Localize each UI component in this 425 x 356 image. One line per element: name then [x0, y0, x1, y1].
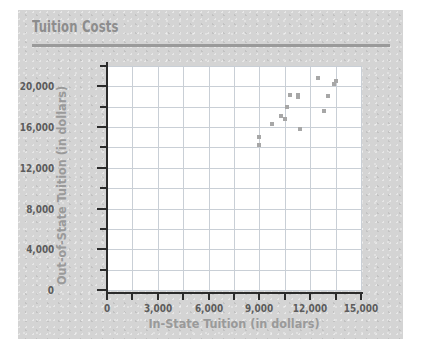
- scatter-chart: 04,0008,00012,00016,00020,00003,0006,000…: [18, 10, 403, 339]
- y-axis-tick-minor: [100, 228, 106, 230]
- scatter-point: [296, 95, 300, 99]
- y-axis-tick-minor: [100, 106, 106, 108]
- y-axis-label: Out-of-State Tuition (in dollars): [54, 81, 69, 291]
- grid-line-horizontal: [107, 147, 361, 148]
- x-axis-tick: [208, 294, 210, 300]
- x-axis-tick-label: 6,000: [195, 302, 223, 315]
- grid-line-vertical: [361, 66, 362, 290]
- x-axis-tick-label: 12,000: [293, 302, 327, 315]
- y-axis-tick-label: 20,000: [20, 80, 54, 93]
- scatter-point: [270, 122, 274, 126]
- x-axis-tick-minor: [182, 294, 184, 300]
- x-axis-tick: [258, 294, 260, 300]
- grid-line-vertical: [132, 66, 133, 290]
- x-axis-tick-minor: [131, 294, 133, 300]
- grid-line-vertical: [259, 66, 260, 290]
- grid-line-vertical: [310, 66, 311, 290]
- x-axis-tick-label: 0: [104, 302, 110, 315]
- y-axis-tick-label: 12,000: [20, 161, 54, 174]
- grid-line-horizontal: [107, 249, 361, 250]
- x-axis-tick-label: 9,000: [245, 302, 273, 315]
- y-axis-tick-minor: [100, 269, 106, 271]
- grid-line-horizontal: [107, 107, 361, 108]
- scatter-point: [316, 76, 320, 80]
- x-axis-tick-minor: [284, 294, 286, 300]
- y-axis-tick-label: 16,000: [20, 121, 54, 134]
- scatter-point: [283, 117, 287, 121]
- grid-line-horizontal: [107, 209, 361, 210]
- x-axis-label: In-State Tuition (in dollars): [107, 316, 361, 331]
- x-axis-tick: [360, 294, 362, 300]
- grid-line-horizontal: [107, 127, 361, 128]
- grid-line-vertical: [183, 66, 184, 290]
- y-axis-tick-major: [97, 289, 106, 291]
- y-axis-tick-major: [97, 85, 106, 87]
- scatter-point: [322, 109, 326, 113]
- grid-line-vertical: [209, 66, 210, 290]
- y-axis-tick-major: [97, 126, 106, 128]
- scatter-point: [334, 79, 338, 83]
- grid-line-horizontal: [107, 229, 361, 230]
- grid-line-vertical: [336, 66, 337, 290]
- y-axis-tick-major: [97, 248, 106, 250]
- x-axis-tick-minor: [335, 294, 337, 300]
- grid-line-horizontal: [107, 168, 361, 169]
- grid-line-vertical: [234, 66, 235, 290]
- screenshot-root: Tuition Costs 04,0008,00012,00016,00020,…: [0, 0, 425, 356]
- x-axis-tick-label: 3,000: [144, 302, 172, 315]
- y-axis-tick-minor: [100, 65, 106, 67]
- grid-line-vertical: [158, 66, 159, 290]
- x-axis-tick: [309, 294, 311, 300]
- y-axis-tick-major: [97, 208, 106, 210]
- scatter-point: [257, 135, 261, 139]
- x-axis-tick: [106, 294, 108, 300]
- y-axis-tick-minor: [100, 187, 106, 189]
- plot-area: [107, 66, 361, 290]
- scatter-point: [257, 143, 261, 147]
- scatter-point: [326, 94, 330, 98]
- scatter-point: [285, 105, 289, 109]
- y-axis-line: [106, 62, 108, 294]
- y-axis-tick-minor: [100, 146, 106, 148]
- scatter-point: [298, 127, 302, 131]
- grid-line-horizontal: [107, 66, 361, 67]
- grid-line-horizontal: [107, 188, 361, 189]
- tuition-costs-card: Tuition Costs 04,0008,00012,00016,00020,…: [18, 10, 403, 339]
- grid-line-horizontal: [107, 270, 361, 271]
- x-axis-tick-label: 15,000: [344, 302, 378, 315]
- y-axis-tick-label: 8,000: [26, 202, 54, 215]
- y-axis-tick-major: [97, 167, 106, 169]
- scatter-point: [288, 93, 292, 97]
- x-axis-tick-minor: [233, 294, 235, 300]
- y-axis-tick-label: 4,000: [26, 243, 54, 256]
- grid-line-vertical: [285, 66, 286, 290]
- grid-line-horizontal: [107, 290, 361, 291]
- x-axis-tick: [157, 294, 159, 300]
- grid-line-horizontal: [107, 86, 361, 87]
